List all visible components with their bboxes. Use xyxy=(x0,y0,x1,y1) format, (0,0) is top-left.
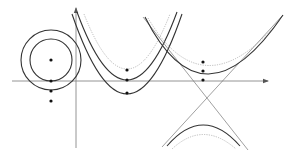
focus-dot xyxy=(201,78,204,81)
parabolas xyxy=(72,12,182,94)
hyperbola-asymptotes xyxy=(143,15,283,150)
asymptote-line xyxy=(143,17,248,150)
focus-dot xyxy=(49,58,52,61)
hyperbola-branches xyxy=(145,15,283,149)
parabola-focus-dots xyxy=(125,68,128,94)
focus-dot xyxy=(201,69,204,72)
circle-focus-dots xyxy=(49,58,52,102)
diagram-svg xyxy=(0,0,295,164)
hyperbola-lower-solid xyxy=(167,125,240,146)
hyperbola-focus-dots xyxy=(201,60,204,81)
hyperbola-lower-dotted xyxy=(172,135,236,150)
focus-dot xyxy=(125,68,128,71)
focus-dot xyxy=(49,99,52,102)
focus-dot xyxy=(201,60,204,63)
focus-dot xyxy=(125,78,128,81)
conic-sections-diagram xyxy=(0,0,295,164)
focus-dot xyxy=(49,89,52,92)
focus-dot xyxy=(125,91,128,94)
parabola-solid xyxy=(72,14,182,94)
parabola-dotted xyxy=(84,14,170,69)
focus-dot xyxy=(49,79,52,82)
hyperbola-upper-dotted xyxy=(148,18,280,66)
